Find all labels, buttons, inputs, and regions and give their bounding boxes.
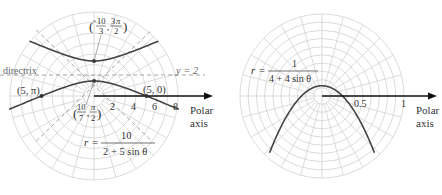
svg-text:): ) [123, 19, 127, 34]
tick-label: 6 [152, 101, 157, 112]
svg-text:(: ( [89, 19, 93, 34]
svg-text:2: 2 [91, 113, 95, 123]
tick-label: 8 [173, 101, 178, 112]
data-point-marker [92, 79, 96, 83]
directrix-equation-label: y = 2 [175, 65, 199, 76]
svg-text:π: π [91, 102, 96, 112]
directrix-label: directrix [3, 65, 37, 76]
svg-text:1: 1 [292, 58, 297, 69]
hyperbola-chart: directrix y = 2 (5, π) (5, 0) 2 4 6 8 Po… [0, 12, 214, 180]
polar-conic-figure: directrix y = 2 (5, π) (5, 0) 2 4 6 8 Po… [0, 0, 442, 195]
tick-label: 0.5 [354, 98, 367, 109]
svg-text:3: 3 [99, 26, 103, 36]
svg-text:2: 2 [114, 26, 118, 36]
svg-text:4 + 4 sin θ: 4 + 4 sin θ [269, 73, 311, 84]
arrow-head-icon [428, 93, 437, 100]
point-label-5-pi: (5, π) [17, 85, 40, 97]
data-point-marker [92, 59, 96, 63]
arrow-head-icon [204, 93, 213, 100]
grid-spoke [101, 37, 153, 89]
polar-axis-label-line1: Polar [416, 104, 440, 116]
svg-text:,: , [107, 22, 109, 32]
svg-text:=: = [259, 65, 265, 76]
polar-axis-label-line2: axis [190, 117, 208, 129]
leader-line [94, 35, 101, 61]
data-point-marker [40, 94, 44, 98]
tick-label: 4 [131, 101, 136, 112]
point-label-5-0: (5, 0) [143, 84, 166, 96]
tick-label: 2 [110, 101, 115, 112]
svg-text:π: π [116, 16, 121, 26]
parabola-chart: 0.5 1 Polar axis r = 1 4 + 4 sin θ [240, 14, 440, 178]
svg-text:r: r [84, 136, 89, 148]
svg-text:10: 10 [77, 102, 86, 112]
tick-label: 1 [401, 98, 406, 109]
svg-text:2 + 5 sin θ: 2 + 5 sin θ [103, 146, 147, 157]
svg-text:): ) [97, 106, 101, 121]
polar-axis-label-line2: axis [416, 117, 434, 129]
polar-axis-label-line1: Polar [190, 104, 214, 116]
equation-right: r = 1 4 + 4 sin θ [251, 58, 318, 84]
grid-spoke [35, 37, 87, 89]
svg-text:10: 10 [121, 130, 132, 141]
svg-text:=: = [92, 136, 98, 148]
svg-text:10: 10 [97, 16, 106, 26]
svg-text:3: 3 [111, 16, 115, 26]
point-label-10-7-pi-2: ( 10 7 , π 2 ) [73, 102, 101, 123]
svg-text:r: r [251, 65, 256, 76]
svg-text:7: 7 [79, 113, 83, 123]
svg-text:,: , [87, 108, 89, 118]
